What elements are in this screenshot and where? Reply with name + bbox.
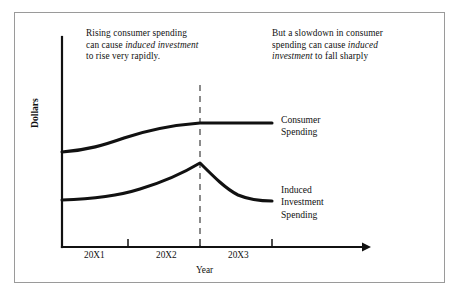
- annotation-right-line2-plain: spending can cause: [272, 40, 348, 50]
- y-axis-title: Dollars: [29, 98, 40, 128]
- annotation-left-line3: to rise very rapidly.: [86, 51, 160, 61]
- annotation-left-line2-plain: can cause: [86, 40, 125, 50]
- annotation-right-line1: But a slowdown in consumer: [272, 28, 383, 38]
- annotation-right-line2-italic: induced: [348, 40, 378, 50]
- x-axis-arrowhead: [362, 243, 371, 252]
- induced-investment-curve: [62, 163, 272, 201]
- series-label-consumer-spending: Consumer Spending: [281, 114, 320, 139]
- consumer-spending-curve: [62, 123, 272, 152]
- series-label-consumer-line2: Spending: [281, 126, 317, 137]
- series-label-induced-line2: Investment: [281, 196, 324, 207]
- x-tick-label-20x3: 20X3: [228, 250, 249, 260]
- annotation-right: But a slowdown in consumer spending can …: [272, 28, 437, 63]
- x-tick-label-20x1: 20X1: [84, 250, 105, 260]
- series-label-consumer-line1: Consumer: [281, 114, 320, 125]
- series-label-induced-line1: Induced: [281, 184, 312, 195]
- x-tick-label-20x2: 20X2: [156, 250, 177, 260]
- annotation-left: Rising consumer spending can cause induc…: [86, 28, 238, 63]
- series-label-induced-investment: Induced Investment Spending: [281, 184, 324, 221]
- annotation-right-line3-plain: to fall sharply: [313, 51, 368, 61]
- x-axis-title: Year: [196, 265, 213, 275]
- series-label-induced-line3: Spending: [281, 209, 317, 220]
- annotation-right-line3-italic: investment: [272, 51, 313, 61]
- annotation-left-line2-italic: induced investment: [125, 40, 198, 50]
- annotation-left-line1: Rising consumer spending: [86, 28, 187, 38]
